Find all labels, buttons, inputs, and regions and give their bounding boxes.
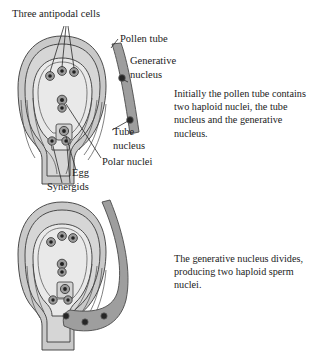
synergid-nucleolus-2 <box>66 298 69 301</box>
antipodal-nucleolus-2 <box>60 234 64 238</box>
paragraph-top-line-3: nucleus and the generative <box>174 114 283 125</box>
sperm-nucleus-2 <box>82 319 88 325</box>
egg-nucleolus <box>62 129 66 133</box>
polar-nuclei-top <box>57 95 67 112</box>
paragraph-top: Initially the pollen tube contains two h… <box>174 88 306 139</box>
antipodal-nucleolus-2 <box>60 69 64 73</box>
antipodal-nucleolus-1 <box>49 240 53 244</box>
label-generative-nucleus-l2: nucleus <box>130 69 162 80</box>
label-tube-nucleus-l2: nucleus <box>113 140 145 151</box>
antipodal-nucleolus-3 <box>72 70 76 74</box>
polar-nuclei-bottom <box>57 259 67 276</box>
egg-nucleolus <box>63 287 67 291</box>
label-pollen-tube: Pollen tube <box>120 33 168 44</box>
antipodal-nucleolus-1 <box>48 74 52 78</box>
tube-nucleus-bottom <box>101 313 107 319</box>
figure-root: Three antipodal cells Pollen tube Genera… <box>0 0 327 363</box>
fertilization-diagram: Three antipodal cells Pollen tube Genera… <box>0 0 327 363</box>
paragraph-top-line-2: two haploid nuclei, the tube <box>174 101 288 112</box>
ovule-top <box>18 36 106 184</box>
polar-nucleolus-1 <box>60 262 64 266</box>
synergid-nucleolus-1 <box>51 298 54 301</box>
polar-nucleolus-1 <box>60 98 64 102</box>
label-three-antipodal-cells: Three antipodal cells <box>12 8 100 19</box>
paragraph-bottom-line-2: producing two haploid sperm <box>174 266 294 277</box>
paragraph-bottom-line-3: nuclei. <box>174 279 201 290</box>
label-egg: Egg <box>72 167 90 178</box>
label-generative-nucleus-l1: Generative <box>130 55 176 66</box>
label-tube-nucleus-l1: Tube <box>113 126 135 137</box>
paragraph-top-line-4: nucleus. <box>174 128 208 139</box>
polar-nucleolus-2 <box>60 270 64 274</box>
synergid-nucleolus-1 <box>50 139 53 142</box>
tube-nucleus-dot <box>127 117 134 124</box>
paragraph-bottom-line-1: The generative nucleus divides, <box>174 253 303 264</box>
polar-nucleolus-2 <box>60 106 64 110</box>
antipodal-nucleolus-3 <box>71 236 75 240</box>
paragraph-bottom: The generative nucleus divides, producin… <box>174 253 303 290</box>
label-polar-nuclei: Polar nuclei <box>102 156 153 167</box>
paragraph-top-line-1: Initially the pollen tube contains <box>174 88 306 99</box>
label-synergids: Synergids <box>47 181 89 192</box>
sperm-nucleus-1 <box>63 313 69 319</box>
